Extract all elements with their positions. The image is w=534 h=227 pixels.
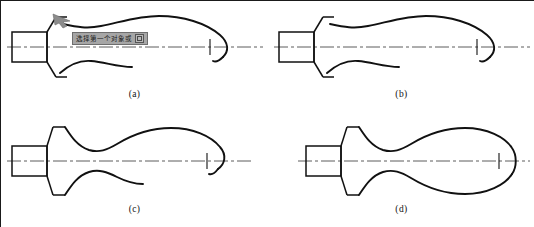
- flange-upper-slant: [47, 127, 53, 146]
- flange-upper-slant: [341, 127, 347, 146]
- upper-profile-curve: [359, 127, 516, 174]
- lower-mirrored-curve: [65, 171, 143, 195]
- tip-end-arc: [209, 169, 218, 174]
- flange-lower-slant: [314, 62, 323, 77]
- caption-c: (c): [1, 204, 268, 214]
- flange-upper-slant: [314, 17, 323, 32]
- caption-d: (d): [268, 204, 534, 214]
- flange-lower-slant: [47, 62, 56, 77]
- caption-a: (a): [1, 89, 268, 99]
- lower-profile-curve: [359, 171, 512, 195]
- panel-c: 选择第二个点 (c): [1, 114, 268, 227]
- caption-b: (b): [268, 89, 534, 99]
- upper-profile-curve: [330, 16, 494, 57]
- lower-partial-curve: [60, 61, 132, 73]
- lower-partial-curve: [327, 61, 399, 73]
- upper-profile-curve: [65, 127, 224, 169]
- panel-a: 选择第一个对象或 (a): [1, 1, 268, 114]
- panel-b: 选择第二个点 (b): [268, 1, 534, 114]
- tooltip-label: 选择第一个对象或: [76, 34, 132, 44]
- flange-lower-slant: [341, 176, 347, 195]
- flange-lower-slant: [47, 176, 53, 195]
- tip-end-arc: [213, 57, 223, 61]
- tip-end-arc: [480, 57, 490, 61]
- figure-frame: 选择第一个对象或 (a) 选择第二个点 (b): [0, 0, 534, 227]
- panel-d: (d): [268, 114, 534, 227]
- tooltip-option-button-icon[interactable]: [135, 34, 144, 43]
- cursor-arrow-icon: [53, 14, 70, 28]
- tooltip-select-first-object[interactable]: 选择第一个对象或: [72, 32, 148, 45]
